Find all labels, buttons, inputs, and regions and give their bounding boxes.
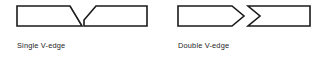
caption-double-v-edge: Double V-edge (178, 41, 229, 50)
left-plate-double-v (178, 6, 244, 26)
left-plate-single-v (17, 6, 82, 26)
right-plate-single-v (84, 6, 147, 26)
caption-single-v-edge: Single V-edge (17, 41, 65, 50)
v-edge-diagram: Single V-edge Double V-edge (0, 0, 322, 60)
